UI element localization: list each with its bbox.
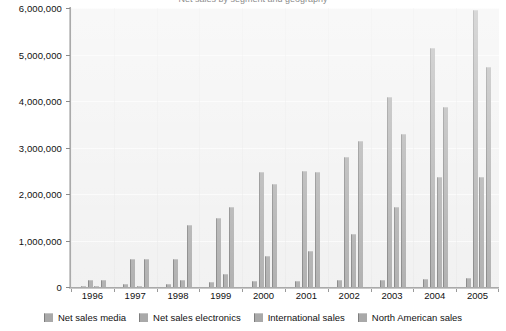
legend-label: Net sales media [58,312,126,323]
bar-group [328,8,371,287]
y-tick-mark [66,148,70,149]
bar [88,280,93,287]
legend-item[interactable]: Net sales media [44,312,126,323]
legend-swatch-icon [254,313,263,322]
bar [401,134,406,287]
bar [137,286,142,287]
bar [337,280,342,287]
y-tick-label: 4,000,000 [19,96,62,107]
legend-swatch-icon [44,313,53,322]
chart-title: Net sales by segment and geography [0,0,506,4]
bar [259,172,264,287]
bar [272,184,277,287]
y-tick-mark [66,101,70,102]
bar [358,141,363,287]
legend-item[interactable]: North American sales [358,312,462,323]
legend-label: North American sales [372,312,462,323]
legend-item[interactable]: Net sales electronics [139,312,241,323]
bar [101,280,106,287]
bar [308,251,313,287]
bar [166,284,171,287]
y-axis-labels: 01,000,0002,000,0003,000,0004,000,0005,0… [0,8,66,288]
bar-group [157,8,200,287]
bar-group [199,8,242,287]
bar [473,10,478,287]
bar-group [114,8,157,287]
x-tick-label: 2002 [339,290,360,301]
bar [443,107,448,287]
bar [423,279,428,287]
bar [130,259,135,287]
legend-swatch-icon [139,313,148,322]
y-tick-label: 5,000,000 [19,49,62,60]
bar-group [413,8,456,287]
x-tick-label: 2001 [296,290,317,301]
bar [229,207,234,287]
bar-groups [71,8,499,287]
y-tick-mark [66,194,70,195]
x-tick-label: 1997 [125,290,146,301]
bar [144,259,149,287]
x-tick-label: 1996 [82,290,103,301]
plot-panel [71,8,499,287]
y-tick-label: 1,000,000 [19,235,62,246]
bar [187,225,192,287]
bar [466,278,471,287]
bar [302,171,307,287]
bar [209,282,214,287]
x-tick-label: 2003 [381,290,402,301]
bar [252,281,257,287]
legend-swatch-icon [358,313,367,322]
bar [380,280,385,287]
legend-label: Net sales electronics [153,312,241,323]
bar [94,286,99,287]
bar-group [456,8,499,287]
legend-item[interactable]: International sales [254,312,345,323]
bar [479,177,484,287]
y-tick-mark [66,241,70,242]
legend-label: International sales [268,312,345,323]
x-axis-labels: 1996199719981999200020012002200320042005 [0,290,506,304]
bar [315,172,320,287]
y-tick-label: 6,000,000 [19,3,62,14]
bar [394,207,399,287]
bar-group [242,8,285,287]
bar-group [371,8,414,287]
bar-group [71,8,114,287]
bar [486,67,491,287]
x-axis-line [69,287,499,289]
plot-area: 01,000,0002,000,0003,000,0004,000,0005,0… [0,8,506,288]
bar [223,274,228,287]
bar [216,218,221,287]
x-tick-label: 2000 [253,290,274,301]
bar [81,286,86,287]
y-tick-label: 3,000,000 [19,142,62,153]
bar-group [285,8,328,287]
x-tick-label: 1999 [210,290,231,301]
chart-legend: Net sales mediaNet sales electronicsInte… [0,309,506,325]
y-tick-mark [66,8,70,9]
bar [344,157,349,287]
bar [123,284,128,287]
x-tick-label: 1998 [167,290,188,301]
x-tick-label: 2005 [467,290,488,301]
bar [295,281,300,287]
x-tick-label: 2004 [424,290,445,301]
bar [265,256,270,287]
y-tick-mark [66,55,70,56]
bar [430,48,435,287]
bar [180,280,185,287]
bar [351,234,356,287]
y-tick-mark [66,287,70,288]
bar [437,177,442,287]
bar [387,97,392,287]
y-tick-label: 2,000,000 [19,189,62,200]
bar-chart-figure: Net sales by segment and geography 01,00… [0,0,506,331]
bar [173,259,178,287]
